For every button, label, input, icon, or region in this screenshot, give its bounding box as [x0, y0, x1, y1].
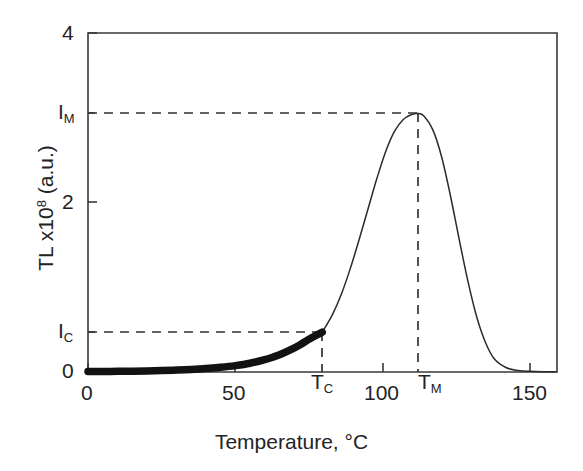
y-axis-title-units: (a.u.)	[34, 145, 57, 200]
y-axis-title-base: TL x10	[34, 207, 57, 270]
y-tick-label-4: 4	[62, 21, 74, 45]
glow-curve-measured-line	[88, 332, 322, 371]
x-tick-label-Tm-sub: M	[431, 381, 442, 396]
y-axis-title: TL x108 (a.u.)	[34, 88, 58, 328]
y-tick-label-Ic-main: I	[58, 319, 64, 342]
y-tick-marks	[88, 33, 97, 372]
y-tick-label-Ic: IC	[58, 319, 73, 343]
x-tick-label-0: 0	[81, 381, 93, 405]
x-tick-label-Tm: TM	[418, 370, 442, 394]
x-tick-label-Tc-main: T	[311, 370, 324, 393]
y-axis-title-exponent: 8	[34, 200, 49, 207]
thermoluminescence-glow-curve-figure: 4 2 0 IM IC 0 50 100 150 TC TM TL x108 (…	[0, 0, 583, 471]
y-tick-label-Im-sub: M	[64, 111, 75, 126]
plot-frame	[88, 33, 557, 372]
y-tick-label-2: 2	[62, 190, 74, 214]
x-tick-label-Tc-sub: C	[324, 381, 333, 396]
y-tick-label-Ic-sub: C	[64, 330, 73, 345]
glow-curve-extrapolated-line	[322, 113, 556, 371]
x-tick-label-Tc: TC	[311, 370, 333, 394]
x-tick-label-Tm-main: T	[418, 370, 431, 393]
x-axis-title: Temperature, °C	[0, 430, 583, 454]
x-tick-label-100: 100	[364, 381, 399, 405]
y-tick-label-Im: IM	[58, 100, 75, 124]
y-tick-label-0: 0	[62, 359, 74, 383]
y-tick-label-Im-main: I	[58, 100, 64, 123]
x-tick-label-150: 150	[512, 381, 547, 405]
x-tick-label-50: 50	[222, 381, 245, 405]
